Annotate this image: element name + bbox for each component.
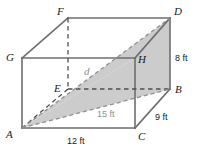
dimension-label-depth: 9 ft [155, 113, 168, 122]
geometry-figure: F D G H E B A C 8 ft 9 ft 12 ft 15 ft d [0, 0, 200, 155]
vertex-label-C: C [138, 131, 145, 142]
vertex-label-F: F [57, 6, 64, 17]
vertex-label-B: B [175, 84, 182, 95]
vertex-label-D: D [174, 6, 182, 17]
vertex-label-A: A [6, 129, 13, 140]
prism-svg [0, 0, 200, 155]
dimension-label-height: 8 ft [175, 54, 188, 63]
dimension-label-width: 12 ft [67, 137, 85, 146]
vertex-label-E: E [54, 83, 61, 94]
vertex-label-H: H [138, 54, 146, 65]
edge-G-F [22, 18, 68, 58]
vertex-label-G: G [6, 52, 14, 63]
dimension-label-face-diagonal: 15 ft [97, 110, 115, 119]
diagonal-label-d: d [84, 66, 90, 77]
